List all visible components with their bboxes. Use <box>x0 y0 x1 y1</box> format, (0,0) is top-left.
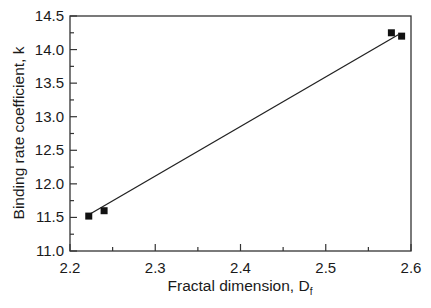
data-point-square <box>85 213 92 220</box>
y-axis-ticks <box>70 16 77 251</box>
data-point-square <box>101 207 108 214</box>
y-tick-label: 12.0 <box>35 175 64 192</box>
y-axis-tick-labels: 11.011.512.012.513.013.514.014.5 <box>35 7 64 259</box>
y-tick-label: 14.0 <box>35 41 64 58</box>
x-tick-label: 2.2 <box>60 259 81 276</box>
y-tick-label: 11.0 <box>36 242 64 259</box>
y-axis-title: Binding rate coefficient, k <box>10 46 27 219</box>
plot-frame <box>70 16 411 251</box>
x-tick-label: 2.4 <box>230 259 251 276</box>
data-point-square <box>388 29 395 36</box>
x-tick-label: 2.3 <box>145 259 166 276</box>
y-tick-label: 12.5 <box>35 141 64 158</box>
fit-line <box>89 35 398 215</box>
data-point-square <box>398 33 405 40</box>
regression-line <box>89 35 398 215</box>
y-tick-label: 14.5 <box>35 7 64 24</box>
y-tick-label: 13.0 <box>35 108 64 125</box>
x-axis-tick-labels: 2.22.32.42.52.6 <box>60 259 422 276</box>
chart: 2.22.32.42.52.6 11.011.512.012.513.013.5… <box>0 0 431 308</box>
x-axis-ticks <box>70 244 411 251</box>
x-tick-label: 2.5 <box>315 259 336 276</box>
x-axis-title: Fractal dimension, Df <box>168 277 313 297</box>
x-tick-label: 2.6 <box>401 259 422 276</box>
y-tick-label: 11.5 <box>36 208 64 225</box>
y-tick-label: 13.5 <box>35 74 64 91</box>
plot-border <box>70 16 411 251</box>
